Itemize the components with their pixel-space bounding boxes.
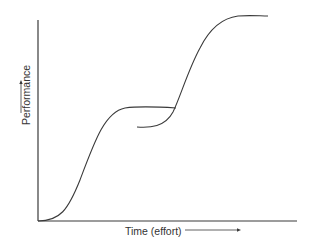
y-axis-label: Performance [20, 65, 32, 125]
second-s-curve [137, 16, 268, 128]
s-curve-diagram [0, 0, 311, 246]
x-axis-arrowhead-icon [237, 228, 241, 231]
first-s-curve [38, 107, 176, 221]
x-axis-label: Time (effort) [125, 225, 182, 237]
